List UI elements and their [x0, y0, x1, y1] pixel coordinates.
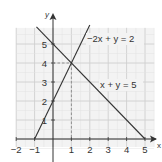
x-tick-label: −1 — [29, 144, 40, 155]
y-tick-label: 2 — [42, 96, 47, 107]
x-tick-label: 5 — [142, 144, 147, 155]
x-tick-label: 4 — [124, 144, 129, 155]
y-tick-label: 5 — [42, 39, 47, 50]
equation-label-2: x + y = 5 — [100, 79, 136, 90]
y-tick-label: 3 — [42, 77, 47, 88]
x-tick-label: 1 — [69, 144, 74, 155]
equation-label-1: −2x + y = 2 — [87, 33, 134, 44]
graph: xy−2−11234512345 −2x + y = 2x + y = 5 — [0, 0, 162, 162]
y-tick-label: 4 — [42, 58, 47, 69]
x-tick-label: −2 — [11, 144, 22, 155]
x-tick-label: 3 — [106, 144, 111, 155]
y-axis-label: y — [44, 10, 50, 19]
x-tick-label: 2 — [87, 144, 92, 155]
x-axis-label: x — [157, 141, 161, 150]
